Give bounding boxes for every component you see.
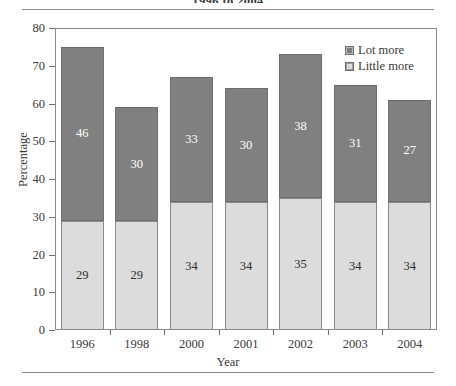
legend-swatch-icon	[345, 62, 354, 71]
bar-value-label: 29	[76, 269, 89, 282]
bar-value-label: 34	[349, 260, 362, 273]
legend-item[interactable]: Lot more	[345, 42, 414, 58]
legend-label: Lot more	[358, 44, 404, 57]
figure-caption-clipped: 1996 to 2004	[0, 0, 456, 3]
bar-segment-little-more[interactable]: 34	[388, 202, 431, 330]
bar-segment-little-more[interactable]: 29	[61, 221, 104, 330]
bar-segment-lot-more[interactable]: 27	[388, 100, 431, 202]
y-axis-tick	[49, 330, 55, 331]
bar-value-label: 34	[185, 260, 198, 273]
bar-group[interactable]: 2946	[61, 28, 104, 330]
x-axis-tick	[164, 330, 165, 335]
x-axis-title: Year	[0, 355, 456, 370]
bar-segment-little-more[interactable]: 34	[170, 202, 213, 330]
x-axis-tick	[110, 330, 111, 335]
bar-value-label: 30	[131, 158, 144, 171]
bar-segment-lot-more[interactable]: 31	[334, 85, 377, 202]
x-axis-tick-label: 2004	[380, 338, 440, 351]
bar-value-label: 29	[131, 269, 144, 282]
bar-segment-little-more[interactable]: 35	[279, 198, 322, 330]
bar-group[interactable]: 3433	[170, 28, 213, 330]
y-axis-tick-label: 70	[14, 60, 45, 73]
bar-segment-lot-more[interactable]: 38	[279, 54, 322, 197]
x-axis-tick-label: 2003	[325, 338, 385, 351]
x-axis-tick-label: 1996	[52, 338, 112, 351]
bar-group[interactable]: 3430	[225, 28, 268, 330]
figure-rule-bottom	[22, 372, 434, 373]
x-axis-tick	[382, 330, 383, 335]
chart-legend: Lot moreLittle more	[345, 42, 414, 74]
x-axis-tick-label: 1998	[107, 338, 167, 351]
bar-value-label: 34	[240, 260, 253, 273]
bar-segment-lot-more[interactable]: 46	[61, 47, 104, 221]
x-axis-tick-label: 2002	[271, 338, 331, 351]
legend-item[interactable]: Little more	[345, 58, 414, 74]
bar-value-label: 31	[349, 137, 362, 150]
bar-segment-lot-more[interactable]: 33	[170, 77, 213, 202]
bar-segment-lot-more[interactable]: 30	[225, 88, 268, 201]
bar-group[interactable]: 2930	[115, 28, 158, 330]
y-axis-tick-label: 80	[14, 22, 45, 35]
x-axis-tick-label: 2000	[161, 338, 221, 351]
x-axis-tick	[328, 330, 329, 335]
bar-value-label: 46	[76, 127, 89, 140]
bar-value-label: 33	[185, 133, 198, 146]
bar-value-label: 27	[403, 144, 416, 157]
y-axis-tick-label: 0	[14, 324, 45, 337]
x-axis-tick-label: 2001	[216, 338, 276, 351]
figure-caption-text: 1996 to 2004	[192, 0, 263, 3]
legend-swatch-icon	[345, 46, 354, 55]
y-axis-tick-label: 20	[14, 249, 45, 262]
x-axis-tick	[273, 330, 274, 335]
bar-value-label: 38	[294, 120, 307, 133]
x-axis-tick	[219, 330, 220, 335]
legend-label: Little more	[358, 60, 414, 73]
bar-value-label: 30	[240, 139, 253, 152]
bar-segment-lot-more[interactable]: 30	[115, 107, 158, 220]
y-axis-title: Percentage	[16, 90, 31, 230]
y-axis-tick-label: 10	[14, 286, 45, 299]
bar-segment-little-more[interactable]: 34	[334, 202, 377, 330]
bar-value-label: 34	[403, 260, 416, 273]
bar-group[interactable]: 3538	[279, 28, 322, 330]
figure-rule-top	[22, 9, 434, 10]
bar-segment-little-more[interactable]: 29	[115, 221, 158, 330]
bar-segment-little-more[interactable]: 34	[225, 202, 268, 330]
bar-value-label: 35	[294, 258, 307, 271]
